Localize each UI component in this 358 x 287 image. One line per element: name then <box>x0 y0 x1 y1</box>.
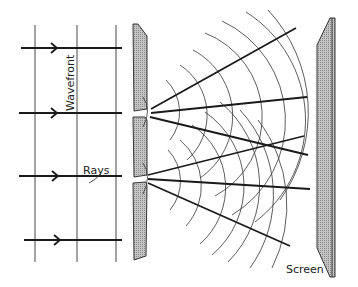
wavefront-label: Wavefront <box>64 54 77 111</box>
barrier-bottom <box>133 182 147 260</box>
lower-slit-waves <box>143 102 287 268</box>
screen-label: Screen <box>286 263 324 276</box>
slit-barrier <box>133 24 147 260</box>
rays-label: Rays <box>83 164 110 177</box>
double-slit-diagram: Wavefront Rays <box>0 0 358 287</box>
barrier-top <box>133 24 147 111</box>
barrier-middle <box>133 117 147 177</box>
screen <box>317 18 335 277</box>
